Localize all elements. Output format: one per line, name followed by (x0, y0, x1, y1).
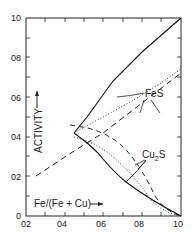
x-tick-0.6: 06 (96, 219, 106, 229)
fes-label: FeS (145, 88, 164, 99)
x-tick-0.8: 08 (134, 219, 144, 229)
y-axis-label: ACTIVITY (33, 108, 44, 153)
y-tick-0.6: 06 (11, 93, 21, 103)
y-tick-0.4: 04 (11, 132, 21, 142)
y-tick-0: 0 (16, 211, 21, 221)
cu2s-pointer-arrows (126, 160, 146, 182)
y-axis-arrow-icon (35, 90, 39, 108)
x-axis-arrow-icon (90, 202, 104, 206)
x-tick-0.4: 04 (57, 219, 67, 229)
y-tick-1.0: 10 (11, 13, 21, 23)
activity-chart: 02 04 06 08 10 0 02 04 06 08 10 ACTIVITY… (0, 0, 193, 240)
y-tick-0.2: 02 (11, 172, 21, 182)
fes-solid-curve (74, 18, 181, 133)
x-tick-1.0: 10 (173, 219, 183, 229)
y-tick-0.8: 08 (11, 53, 21, 63)
x-tick-0.2: 02 (21, 219, 31, 229)
x-axis-label: Fe/(Fe + Cu) (34, 198, 91, 209)
fes-dotted-curve (74, 69, 181, 133)
